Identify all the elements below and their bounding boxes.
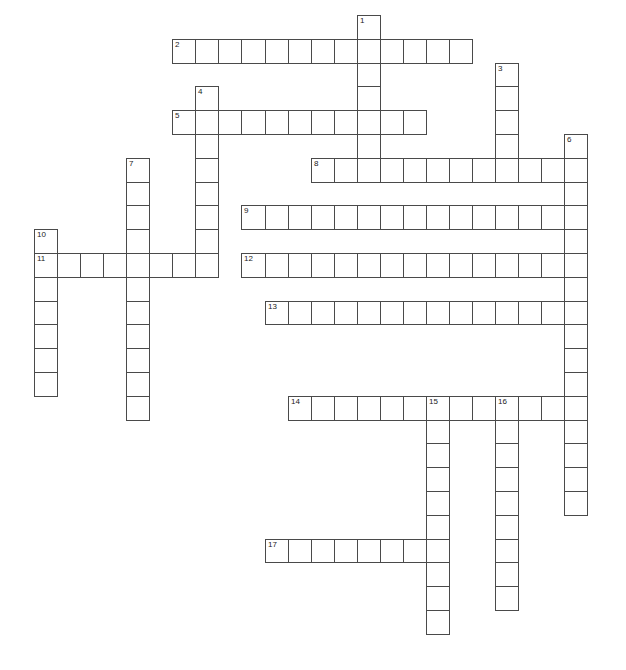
crossword-cell[interactable] xyxy=(403,253,427,278)
crossword-cell[interactable] xyxy=(357,253,381,278)
crossword-cell[interactable] xyxy=(380,158,404,183)
crossword-cell[interactable] xyxy=(564,229,588,254)
crossword-cell[interactable] xyxy=(126,182,150,206)
crossword-cell[interactable] xyxy=(334,396,358,421)
crossword-cell[interactable] xyxy=(495,491,519,516)
crossword-cell[interactable] xyxy=(403,301,427,325)
crossword-cell[interactable] xyxy=(357,301,381,325)
crossword-cell[interactable] xyxy=(449,158,473,183)
crossword-cell[interactable]: 11 xyxy=(34,253,58,278)
crossword-cell[interactable] xyxy=(564,182,588,206)
crossword-cell[interactable] xyxy=(426,610,450,635)
crossword-cell[interactable] xyxy=(472,158,496,183)
crossword-cell[interactable] xyxy=(380,39,404,64)
crossword-cell[interactable] xyxy=(541,253,565,278)
crossword-cell[interactable]: 10 xyxy=(34,229,58,254)
crossword-cell[interactable] xyxy=(495,539,519,563)
crossword-cell[interactable] xyxy=(172,253,196,278)
crossword-cell[interactable] xyxy=(103,253,127,278)
crossword-cell[interactable] xyxy=(311,539,335,563)
crossword-cell[interactable] xyxy=(265,39,289,64)
crossword-cell[interactable] xyxy=(241,39,266,64)
crossword-cell[interactable] xyxy=(449,301,473,325)
crossword-cell[interactable] xyxy=(472,205,496,230)
crossword-cell[interactable] xyxy=(334,301,358,325)
crossword-cell[interactable]: 12 xyxy=(241,253,266,278)
crossword-cell[interactable]: 17 xyxy=(265,539,289,563)
crossword-cell[interactable] xyxy=(426,562,450,587)
crossword-cell[interactable] xyxy=(541,205,565,230)
crossword-cell[interactable] xyxy=(426,420,450,444)
crossword-cell[interactable] xyxy=(311,253,335,278)
crossword-cell[interactable] xyxy=(126,277,150,302)
crossword-cell[interactable] xyxy=(288,39,312,64)
crossword-cell[interactable] xyxy=(218,110,242,135)
crossword-cell[interactable] xyxy=(357,86,381,111)
crossword-cell[interactable] xyxy=(495,301,519,325)
crossword-cell[interactable] xyxy=(564,324,588,349)
crossword-cell[interactable]: 14 xyxy=(288,396,312,421)
crossword-cell[interactable] xyxy=(472,253,496,278)
crossword-cell[interactable] xyxy=(357,110,381,135)
crossword-cell[interactable] xyxy=(426,39,450,64)
crossword-cell[interactable] xyxy=(495,253,519,278)
crossword-cell[interactable] xyxy=(311,39,335,64)
crossword-cell[interactable] xyxy=(426,515,450,540)
crossword-cell[interactable] xyxy=(265,253,289,278)
crossword-cell[interactable] xyxy=(564,205,588,230)
crossword-cell[interactable] xyxy=(564,443,588,468)
crossword-cell[interactable] xyxy=(495,562,519,587)
crossword-cell[interactable]: 13 xyxy=(265,301,289,325)
crossword-cell[interactable] xyxy=(426,205,450,230)
crossword-cell[interactable] xyxy=(80,253,104,278)
crossword-cell[interactable]: 4 xyxy=(195,86,219,111)
crossword-cell[interactable] xyxy=(564,420,588,444)
crossword-cell[interactable] xyxy=(426,491,450,516)
crossword-cell[interactable] xyxy=(472,396,496,421)
crossword-cell[interactable] xyxy=(126,253,150,278)
crossword-cell[interactable] xyxy=(564,301,588,325)
crossword-cell[interactable] xyxy=(403,110,427,135)
crossword-cell[interactable] xyxy=(380,396,404,421)
crossword-cell[interactable] xyxy=(195,229,219,254)
crossword-cell[interactable] xyxy=(195,39,219,64)
crossword-cell[interactable] xyxy=(564,253,588,278)
crossword-cell[interactable] xyxy=(426,467,450,492)
crossword-cell[interactable] xyxy=(195,134,219,159)
crossword-cell[interactable] xyxy=(218,39,242,64)
crossword-cell[interactable] xyxy=(403,539,427,563)
crossword-cell[interactable] xyxy=(495,586,519,611)
crossword-cell[interactable] xyxy=(541,301,565,325)
crossword-cell[interactable] xyxy=(449,253,473,278)
crossword-cell[interactable] xyxy=(380,205,404,230)
crossword-cell[interactable] xyxy=(564,396,588,421)
crossword-cell[interactable]: 5 xyxy=(172,110,196,135)
crossword-cell[interactable] xyxy=(541,396,565,421)
crossword-cell[interactable] xyxy=(334,539,358,563)
crossword-cell[interactable] xyxy=(126,396,150,421)
crossword-cell[interactable] xyxy=(518,396,542,421)
crossword-cell[interactable] xyxy=(449,39,473,64)
crossword-cell[interactable] xyxy=(288,301,312,325)
crossword-cell[interactable] xyxy=(126,301,150,325)
crossword-cell[interactable] xyxy=(564,491,588,516)
crossword-cell[interactable] xyxy=(334,205,358,230)
crossword-cell[interactable] xyxy=(195,182,219,206)
crossword-cell[interactable] xyxy=(518,205,542,230)
crossword-cell[interactable] xyxy=(518,253,542,278)
crossword-cell[interactable] xyxy=(357,134,381,159)
crossword-cell[interactable] xyxy=(564,158,588,183)
crossword-cell[interactable] xyxy=(564,348,588,373)
crossword-cell[interactable] xyxy=(495,515,519,540)
crossword-cell[interactable] xyxy=(449,396,473,421)
crossword-cell[interactable] xyxy=(265,205,289,230)
crossword-cell[interactable] xyxy=(357,63,381,87)
crossword-cell[interactable] xyxy=(334,110,358,135)
crossword-cell[interactable] xyxy=(541,158,565,183)
crossword-cell[interactable] xyxy=(126,348,150,373)
crossword-cell[interactable] xyxy=(426,443,450,468)
crossword-cell[interactable] xyxy=(334,158,358,183)
crossword-cell[interactable] xyxy=(34,348,58,373)
crossword-cell[interactable] xyxy=(311,205,335,230)
crossword-cell[interactable] xyxy=(403,205,427,230)
